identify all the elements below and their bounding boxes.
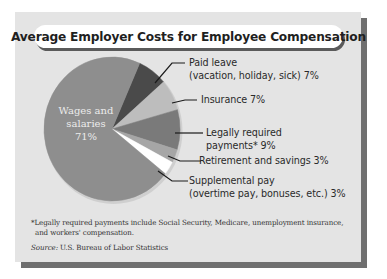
source-text: U.S. Bureau of Labor Statistics	[58, 243, 168, 252]
label-supplemental-line2: (overtime pay, bonuses, etc.) 3%	[189, 187, 346, 200]
label-paid-leave-line2: (vacation, holiday, sick) 7%	[189, 69, 319, 82]
label-paid-leave-line1: Paid leave	[189, 56, 319, 69]
label-insurance: Insurance 7%	[201, 93, 265, 106]
label-paid-leave: Paid leave (vacation, holiday, sick) 7%	[189, 56, 319, 82]
source-label: Source:	[31, 243, 58, 252]
label-legal-line1: Legally required	[206, 126, 282, 139]
source-note: Source: U.S. Bureau of Labor Statistics	[31, 243, 168, 253]
label-wages-line1: Wages and	[50, 104, 122, 117]
label-wages-pct: 71%	[50, 130, 122, 143]
footnote-line1: *Legally required payments include Socia…	[31, 218, 343, 228]
label-wages: Wages and salaries 71%	[50, 104, 122, 143]
label-supplemental: Supplemental pay (overtime pay, bonuses,…	[189, 174, 346, 200]
label-legal: Legally required payments* 9%	[206, 126, 282, 152]
label-legal-line2: payments* 9%	[206, 139, 282, 152]
footnote: *Legally required payments include Socia…	[31, 218, 343, 238]
footnote-line2: and workers' compensation.	[31, 228, 343, 238]
label-wages-line2: salaries	[50, 117, 122, 130]
label-supplemental-line1: Supplemental pay	[189, 174, 346, 187]
label-retirement: Retirement and savings 3%	[199, 154, 329, 167]
